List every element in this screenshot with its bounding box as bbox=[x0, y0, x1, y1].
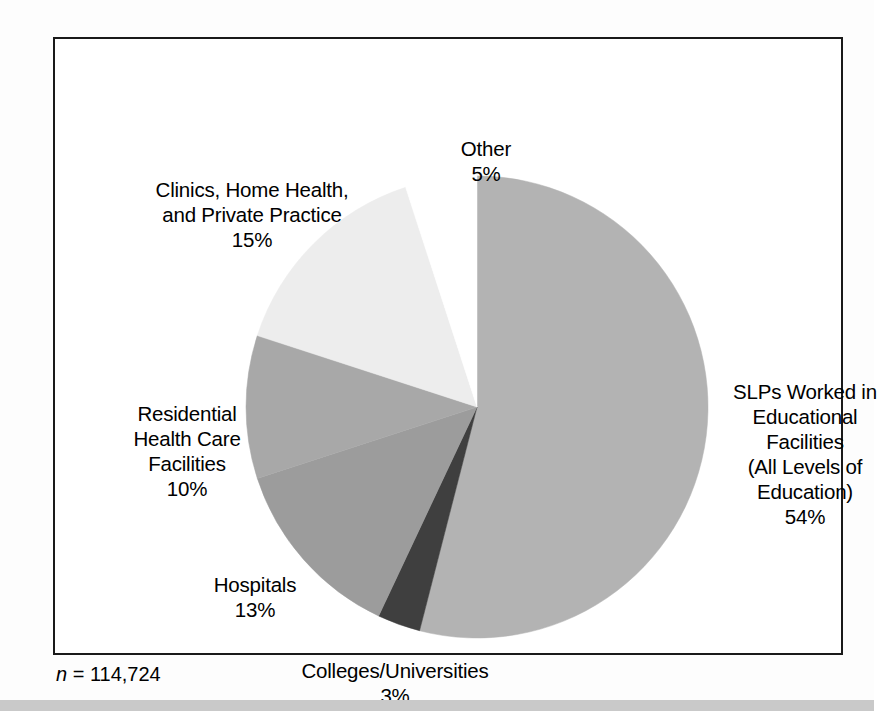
slice-label-hospitals-text: Hospitals bbox=[214, 573, 297, 596]
slice-label-colleges-universities-text: Colleges/Universities bbox=[301, 659, 488, 682]
slice-label-residential-health-care-text: Residential Health Care Facilities bbox=[133, 402, 240, 475]
slice-label-slps-educational-text: SLPs Worked in Educational Facilities (A… bbox=[733, 380, 877, 503]
slice-label-other: Other 5% bbox=[411, 111, 561, 211]
slice-label-residential-health-care-percent: 10% bbox=[97, 476, 277, 501]
slice-label-residential-health-care: Residential Health Care Facilities 10% bbox=[97, 376, 277, 526]
slice-label-other-text: Other bbox=[461, 137, 511, 160]
page-bottom-band bbox=[0, 700, 874, 711]
slice-label-slps-educational-percent: 54% bbox=[715, 504, 881, 529]
sample-size-footnote: n = 114,724 bbox=[56, 663, 161, 686]
slice-label-clinics-home-health-text: Clinics, Home Health, and Private Practi… bbox=[156, 178, 349, 226]
slice-label-clinics-home-health-percent: 15% bbox=[102, 227, 402, 252]
slice-label-slps-educational: SLPs Worked in Educational Facilities (A… bbox=[715, 354, 881, 554]
slice-label-clinics-home-health: Clinics, Home Health, and Private Practi… bbox=[102, 152, 402, 277]
slice-label-hospitals: Hospitals 13% bbox=[165, 547, 345, 647]
slice-label-other-percent: 5% bbox=[411, 161, 561, 186]
slice-label-hospitals-percent: 13% bbox=[165, 597, 345, 622]
chart-frame: Other 5% Clinics, Home Health, and Priva… bbox=[53, 37, 843, 655]
sample-size-value: = 114,724 bbox=[67, 663, 161, 685]
sample-size-symbol: n bbox=[56, 663, 67, 685]
